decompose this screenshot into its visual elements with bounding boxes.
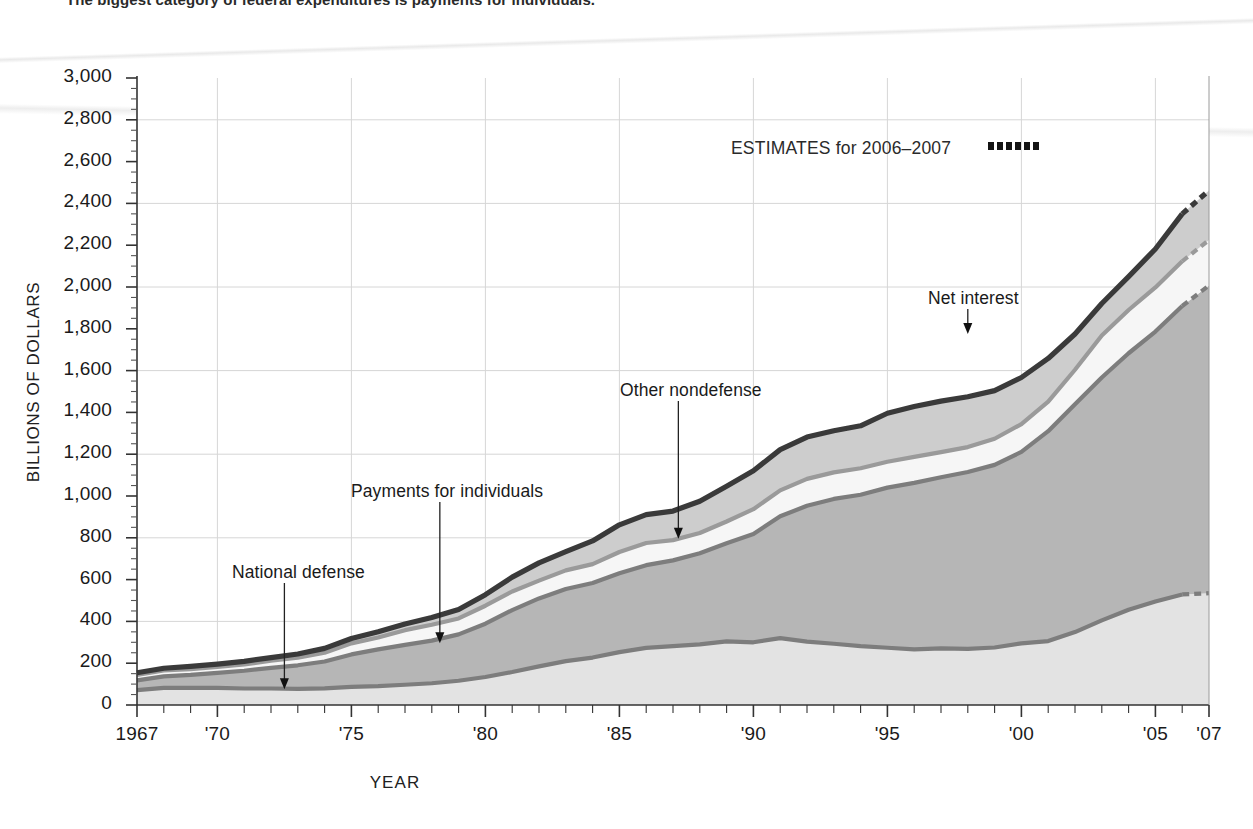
x-axis-title: YEAR [0,773,790,793]
y-tick-label: 2,000 [2,274,112,296]
y-tick-label: 1,400 [2,399,112,421]
y-tick-label: 1,800 [2,316,112,338]
annotation-net-interest: Net interest [928,288,1019,309]
stacked-area-chart: BILLIONS OF DOLLARS YEAR 02004006008001,… [0,0,1253,829]
y-tick-label: 0 [2,692,112,714]
x-tick-label: '85 [579,723,659,745]
annotation-payments-for-individuals: Payments for individuals [351,481,543,502]
y-tick-label: 600 [2,567,112,589]
x-tick-label: '70 [177,723,257,745]
x-tick-label: '80 [445,723,525,745]
x-tick-label: '95 [847,723,927,745]
chart-canvas [0,0,1253,829]
y-tick-label: 2,400 [2,190,112,212]
y-tick-label: 1,000 [2,483,112,505]
y-tick-label: 2,600 [2,149,112,171]
x-tick-label: '75 [311,723,391,745]
y-tick-label: 400 [2,608,112,630]
x-tick-label: '07 [1169,723,1249,745]
y-tick-label: 2,200 [2,232,112,254]
estimates-legend-label: ESTIMATES for 2006–2007 [731,138,951,159]
annotation-other-nondefense: Other nondefense [620,380,762,401]
y-tick-label: 2,800 [2,107,112,129]
y-tick-label: 800 [2,525,112,547]
estimates-dash-swatch [988,142,1039,150]
x-tick-label: '00 [981,723,1061,745]
y-tick-label: 1,600 [2,358,112,380]
y-tick-label: 3,000 [2,65,112,87]
annotation-national-defense: National defense [232,562,365,583]
y-tick-label: 200 [2,650,112,672]
y-tick-label: 1,200 [2,441,112,463]
x-tick-label: '90 [713,723,793,745]
x-tick-label: 1967 [97,723,177,745]
